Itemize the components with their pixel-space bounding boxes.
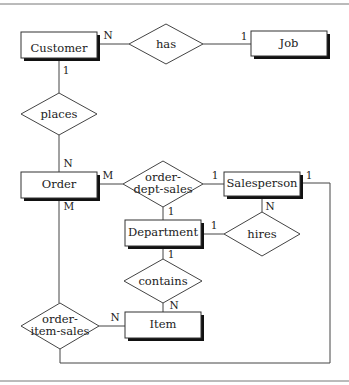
entity-salesperson[interactable]: Salesperson	[224, 172, 303, 199]
cardinality-customer-has: N	[103, 29, 112, 41]
relationship-places[interactable]: places	[21, 93, 97, 135]
entity-label: Item	[150, 317, 177, 331]
er-diagram: Customer Job Order Salesperson Departmen…	[0, 0, 349, 385]
cardinality-department-hires: 1	[211, 219, 218, 231]
entity-customer[interactable]: Customer	[21, 32, 100, 61]
relationship-label: places	[40, 107, 77, 121]
cardinality-has-job: 1	[241, 30, 248, 42]
cardinality-salesperson-ois: 1	[306, 169, 313, 181]
relationship-order-item-sales[interactable]: order- item-sales	[21, 303, 99, 349]
relationship-label-line2: item-sales	[30, 324, 89, 338]
entity-item[interactable]: Item	[125, 312, 204, 341]
entity-label: Salesperson	[226, 176, 298, 190]
entity-label: Job	[279, 36, 299, 50]
entity-label: Department	[128, 225, 198, 239]
cardinality-contains-item: N	[169, 299, 178, 311]
cardinality-department-contains: 1	[168, 248, 175, 260]
relationship-has[interactable]: has	[129, 24, 203, 64]
cardinality-order-ods: M	[103, 169, 114, 181]
entity-job[interactable]: Job	[251, 31, 330, 59]
cardinality-salesperson-hires: N	[265, 200, 274, 212]
relationship-label: has	[156, 37, 176, 51]
entity-department[interactable]: Department	[125, 220, 204, 249]
cardinality-order-ois: M	[64, 200, 75, 212]
cardinality-ods-salesperson: 1	[212, 169, 219, 181]
cardinality-customer-places: 1	[63, 64, 70, 76]
relationship-label-line2: dept-sales	[133, 182, 192, 196]
relationship-order-dept-sales[interactable]: order- dept-sales	[123, 161, 203, 207]
entity-order[interactable]: Order	[21, 172, 100, 201]
relationship-label: contains	[138, 274, 187, 288]
cardinality-ois-item: N	[110, 311, 119, 323]
cardinality-ods-department: 1	[168, 205, 175, 217]
cardinality-places-order: N	[63, 157, 72, 169]
entity-label: Customer	[31, 41, 88, 55]
entity-label: Order	[42, 177, 77, 191]
relationship-contains[interactable]: contains	[124, 259, 202, 303]
relationship-label: hires	[247, 227, 276, 241]
relationship-hires[interactable]: hires	[224, 212, 300, 256]
